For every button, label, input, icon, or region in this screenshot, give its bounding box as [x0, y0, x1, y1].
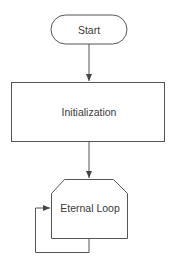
eternal-loop-label: Eternal Loop — [60, 202, 120, 214]
flowchart-canvas: Start Initialization Eternal Loop — [0, 0, 173, 266]
initialization-label: Initialization — [62, 106, 117, 118]
eternal-loop-node: Eternal Loop — [52, 180, 128, 239]
start-label: Start — [78, 24, 100, 36]
initialization-node: Initialization — [12, 83, 165, 142]
start-node: Start — [51, 15, 127, 44]
